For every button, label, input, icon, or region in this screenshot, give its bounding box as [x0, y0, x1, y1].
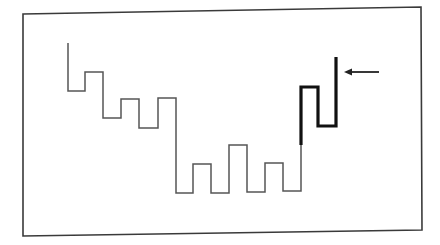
diagram-canvas: [0, 0, 440, 245]
thick-step-line: [301, 57, 336, 145]
arrow-head: [344, 69, 352, 76]
diagram-frame: [23, 7, 422, 236]
thin-step-line: [68, 43, 301, 193]
pointer-arrow-icon: [344, 69, 379, 76]
